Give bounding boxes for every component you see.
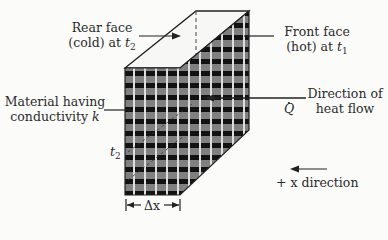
direction-line1: Direction of <box>305 86 385 101</box>
front-face-line2: (hot) at t1 <box>278 39 356 59</box>
rear-face-line2-text: (cold) at <box>68 35 125 50</box>
t1-sub: 1 <box>342 46 348 56</box>
front-face-line2-text: (hot) at <box>286 39 337 54</box>
material-label: Material having conductivity k <box>4 94 106 124</box>
front-face-label: Front face (hot) at t1 <box>278 24 356 59</box>
arrowhead-icon <box>127 202 134 208</box>
rear-face-label: Rear face (cold) at t2 <box>62 20 142 55</box>
material-line1: Material having <box>4 94 106 109</box>
rear-face-line2: (cold) at t2 <box>62 35 142 55</box>
k-var: k <box>92 109 100 124</box>
q-var: Q <box>284 101 294 116</box>
thickness-label: Δx <box>144 198 160 213</box>
x-direction-text: + x direction <box>276 175 358 190</box>
t2-label: t2 <box>110 144 121 164</box>
arrowhead-icon <box>172 202 179 208</box>
x-direction-label: + x direction <box>276 175 358 190</box>
rear-face-line1: Rear face <box>62 20 142 35</box>
delta-x-var: Δx <box>144 198 160 213</box>
t2-sub: 2 <box>130 42 136 52</box>
t2-sub: 2 <box>115 151 121 161</box>
arrowhead-icon <box>290 166 299 173</box>
material-line2: conductivity k <box>4 109 106 124</box>
direction-line2: heat flow <box>305 101 385 116</box>
direction-label: Direction of heat flow <box>305 86 385 116</box>
heat-rate-symbol: Q <box>284 101 294 116</box>
material-line2-text: conductivity <box>10 109 92 124</box>
front-face-line1: Front face <box>278 24 356 39</box>
